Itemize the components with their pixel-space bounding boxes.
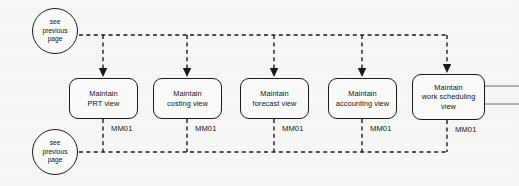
exit-line-group	[485, 86, 519, 104]
transaction-code-maintain-prt-view: MM01	[111, 124, 133, 133]
process-node-maintain-forecast-view[interactable]: Maintain forecast view	[240, 78, 309, 119]
process-node-maintain-prt-view[interactable]: Maintain PRT view	[69, 78, 138, 119]
page-reference-see-previous-page-top[interactable]: see previous page	[32, 8, 78, 54]
page-reference-label: see previous page	[43, 139, 68, 164]
process-node-label: Maintain costing view	[164, 89, 211, 108]
process-node-label: Maintain PRT view	[85, 89, 123, 108]
process-node-label: Maintain accounting view	[333, 89, 392, 108]
process-node-label: Maintain forecast view	[250, 89, 300, 108]
transaction-code-maintain-costing-view: MM01	[195, 124, 217, 133]
diagram-canvas: Maintain PRT viewMaintain costing viewMa…	[0, 0, 519, 186]
process-node-maintain-work-scheduling-view[interactable]: Maintain work scheduling view	[412, 74, 485, 120]
transaction-code-maintain-accounting-view: MM01	[370, 124, 392, 133]
process-node-maintain-costing-view[interactable]: Maintain costing view	[153, 78, 222, 119]
transaction-code-maintain-work-scheduling-view: MM01	[455, 125, 477, 134]
process-node-maintain-accounting-view[interactable]: Maintain accounting view	[328, 78, 397, 119]
process-node-label: Maintain work scheduling view	[419, 83, 479, 112]
page-reference-label: see previous page	[43, 18, 68, 43]
page-reference-see-previous-page-bottom[interactable]: see previous page	[32, 129, 78, 175]
transaction-code-maintain-forecast-view: MM01	[282, 124, 304, 133]
